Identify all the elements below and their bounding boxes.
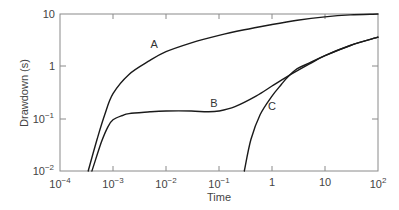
svg-text:1: 1 [49,60,55,72]
svg-text:10−4: 10−4 [49,176,71,190]
curves [88,14,378,171]
y-tick-labels: 10−2 10−1 1 10 [33,8,55,177]
drawdown-chart: 10−4 10−3 10−2 10−1 1 10 102 10−2 10−1 1… [0,0,399,210]
svg-text:1: 1 [269,176,275,188]
curve-c [244,37,378,171]
svg-text:10−1: 10−1 [33,111,55,125]
x-tick-labels: 10−4 10−3 10−2 10−1 1 10 102 [49,176,387,190]
svg-text:102: 102 [370,176,387,190]
svg-text:10−2: 10−2 [33,163,55,177]
curve-a [88,14,378,171]
curve-b [92,37,378,171]
curve-labels: ABC [151,38,276,111]
plot-frame [60,14,378,171]
x-ticks [113,14,325,171]
svg-text:10: 10 [43,8,55,20]
curve-label-c: C [268,100,276,112]
svg-text:10−3: 10−3 [102,176,124,190]
svg-text:10: 10 [319,176,331,188]
x-axis-title: Time [207,191,231,203]
curve-label-b: B [210,97,217,109]
y-axis-title: Drawdown (s) [18,59,30,127]
curve-label-a: A [151,38,159,50]
svg-text:10−1: 10−1 [208,176,230,190]
svg-text:10−2: 10−2 [155,176,177,190]
